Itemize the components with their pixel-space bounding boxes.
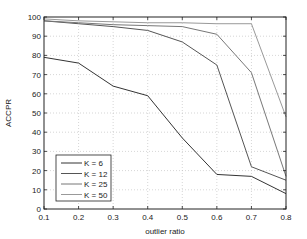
y-tick-label: 90 <box>32 32 41 41</box>
x-tick-label: 0.3 <box>108 213 120 222</box>
y-tick-label: 30 <box>32 147 41 156</box>
y-axis-label: ACCPR <box>4 99 13 127</box>
x-tick-label: 0.7 <box>246 213 258 222</box>
legend-label: K = 12 <box>84 170 108 179</box>
series-line <box>44 21 286 177</box>
y-tick-label: 50 <box>32 109 41 118</box>
y-tick-label: 100 <box>28 13 42 22</box>
x-tick-label: 0.1 <box>38 213 50 222</box>
y-tick-label: 20 <box>32 167 41 176</box>
legend-label: K = 6 <box>84 159 103 168</box>
y-tick-label: 80 <box>32 51 41 60</box>
x-tick-label: 0.5 <box>177 213 189 222</box>
legend: K = 6K = 12K = 25K = 50 <box>56 155 111 201</box>
y-tick-label: 10 <box>32 186 41 195</box>
y-tick-label: 40 <box>32 128 41 137</box>
x-tick-label: 0.4 <box>142 213 154 222</box>
y-tick-label: 70 <box>32 71 41 80</box>
x-tick-label: 0.2 <box>73 213 85 222</box>
y-tick-label: 60 <box>32 90 41 99</box>
legend-label: K = 50 <box>84 191 108 200</box>
series-line <box>44 19 286 117</box>
legend-label: K = 25 <box>84 180 108 189</box>
line-chart: 0.10.20.30.40.50.60.70.80102030405060708… <box>0 0 307 239</box>
x-axis-label: outlier ratio <box>145 227 185 236</box>
x-tick-label: 0.8 <box>280 213 292 222</box>
y-tick-label: 0 <box>37 205 42 214</box>
x-tick-label: 0.6 <box>211 213 223 222</box>
